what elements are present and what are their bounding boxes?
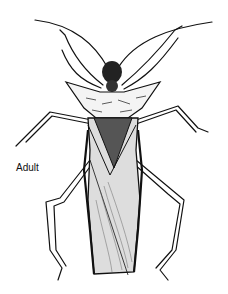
head xyxy=(102,61,122,83)
insect-illustration xyxy=(0,0,228,294)
right-midleg xyxy=(136,106,208,132)
left-foreleg xyxy=(60,30,103,85)
right-foreleg xyxy=(122,26,182,85)
left-hindleg xyxy=(46,160,90,280)
right-antenna xyxy=(118,22,212,68)
left-antenna xyxy=(35,20,108,68)
adult-label: Adult xyxy=(16,162,39,173)
